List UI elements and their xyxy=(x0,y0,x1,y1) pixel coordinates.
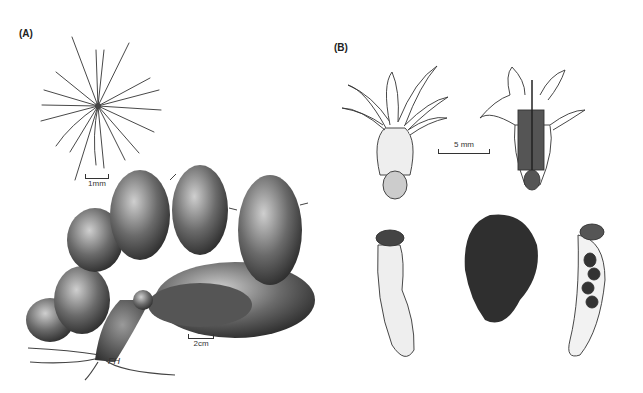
flower-whole xyxy=(342,66,448,199)
flower-longitudinal-section xyxy=(480,67,585,190)
fruit-section xyxy=(569,224,605,356)
seed xyxy=(465,214,538,322)
panel-b-illustrations xyxy=(0,0,643,393)
fruit-whole xyxy=(376,230,414,356)
scale-bar-5mm: 5 mm xyxy=(438,140,490,154)
scale-label-5mm: 5 mm xyxy=(438,140,490,149)
